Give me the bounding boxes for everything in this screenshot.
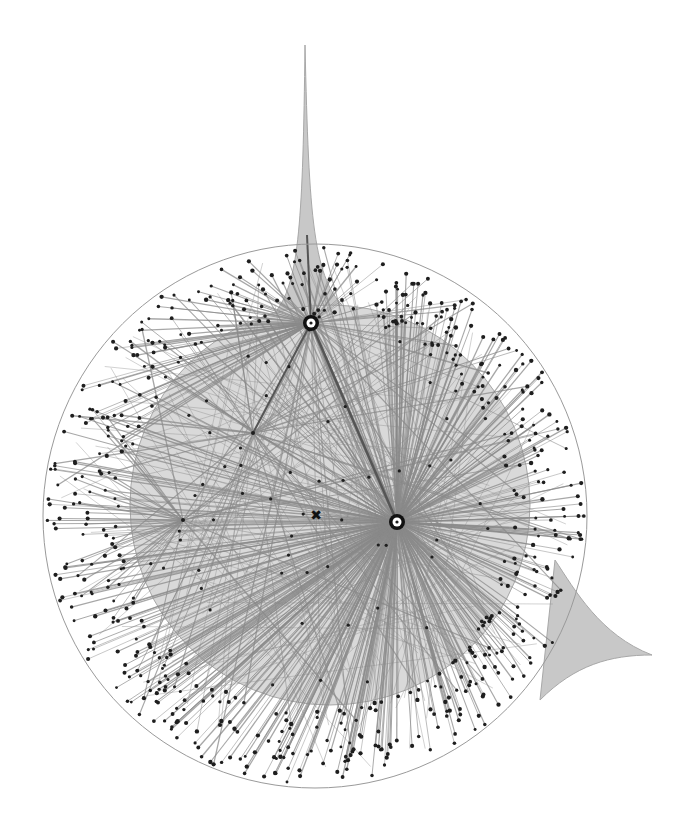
hub-a-marker [303, 315, 319, 331]
centroid-x-marker: ✖ [310, 507, 322, 523]
hub-b-marker [389, 514, 405, 530]
right-spike [540, 560, 652, 700]
top-spike [277, 45, 347, 310]
network-diagram: ✖ [0, 0, 697, 839]
